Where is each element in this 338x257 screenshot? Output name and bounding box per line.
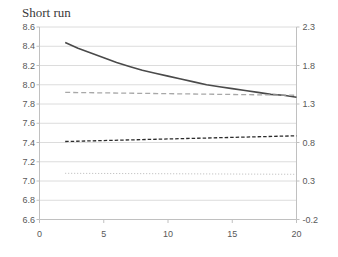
x-axis-tick-label: 0 <box>37 229 42 239</box>
series-light-dotted-line <box>65 173 296 174</box>
left-axis-tick-label: 7.0 <box>22 176 35 186</box>
left-axis-tick-label: 8.2 <box>22 61 35 71</box>
left-axis-tick-label: 7.2 <box>22 157 35 167</box>
left-axis-tick-label: 8.4 <box>22 41 35 51</box>
right-axis-tick-label: 0.8 <box>303 138 316 148</box>
line-chart: Short run 8.68.48.28.07.87.67.47.27.06.8… <box>0 0 338 257</box>
series-solid-declining-curve <box>65 42 296 97</box>
right-axis-tick-label: 0.3 <box>303 176 316 186</box>
x-axis-tick-label: 20 <box>291 229 301 239</box>
right-axis-tick-label: 2.3 <box>303 22 316 32</box>
x-axis-tick-label: 15 <box>227 229 237 239</box>
right-axis-tick-label: 1.8 <box>303 61 316 71</box>
left-axis-tick-label: 7.4 <box>22 138 35 148</box>
left-axis-tick-label: 8.0 <box>22 80 35 90</box>
left-axis-tick-label: 7.8 <box>22 99 35 109</box>
plot-canvas: 8.68.48.28.07.87.67.47.27.06.86.62.31.81… <box>0 0 338 257</box>
x-axis-tick-label: 10 <box>163 229 173 239</box>
x-axis-tick-label: 5 <box>101 229 106 239</box>
left-axis-tick-label: 7.6 <box>22 118 35 128</box>
series-dark-short-dashed-line <box>65 136 296 142</box>
left-axis-tick-label: 6.8 <box>22 195 35 205</box>
right-axis-tick-label: -0.2 <box>303 215 319 225</box>
right-axis-tick-label: 1.3 <box>303 99 316 109</box>
left-axis-tick-label: 8.6 <box>22 22 35 32</box>
left-axis-tick-label: 6.6 <box>22 215 35 225</box>
